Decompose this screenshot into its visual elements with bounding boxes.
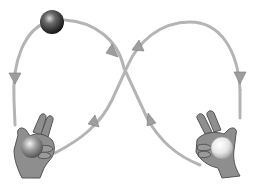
arrow-icon (147, 113, 156, 126)
ball-dark-in-hand (21, 136, 43, 158)
ball-dark-airborne (40, 10, 64, 34)
juggling-diagram (0, 0, 253, 195)
arrow-icon (9, 73, 21, 84)
arrow-icon (234, 72, 246, 84)
ball-light-in-hand (211, 137, 233, 159)
